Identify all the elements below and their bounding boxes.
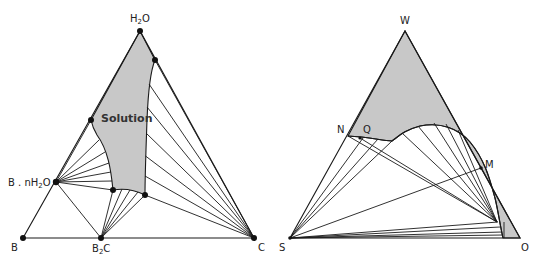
hydrate-point <box>53 179 59 185</box>
solution-bottom-left-point <box>110 187 116 193</box>
hydrate-label: B . nH2O <box>8 177 51 190</box>
n-label: N <box>337 124 344 135</box>
m-point <box>479 166 483 170</box>
left-ternary-diagram: H2O B C B2C B . nH2O Solution <box>8 13 265 256</box>
ternary-phase-diagrams: H2O B C B2C B . nH2O Solution <box>0 0 545 269</box>
h2o-vertex-point <box>137 28 143 34</box>
h2o-label: H2O <box>130 13 150 26</box>
o-label: O <box>521 242 529 253</box>
b-label: B <box>11 242 18 253</box>
q-point <box>358 136 361 139</box>
s-label: S <box>279 242 285 253</box>
tie-lines-to-c <box>145 60 254 238</box>
b2c-point <box>98 235 104 241</box>
c-label: C <box>258 242 265 253</box>
tie-lines-to-b2c <box>101 189 145 238</box>
solution-upper-left-point <box>88 117 94 123</box>
solution-bottom-right-point <box>142 192 148 198</box>
hydrate-to-b2c-line <box>56 182 101 238</box>
q-label: Q <box>363 124 371 135</box>
tie-lines-from-s <box>290 138 503 238</box>
solution-upper-right-point <box>152 57 158 63</box>
w-label: W <box>400 15 410 26</box>
right-ternary-diagram: W S O N Q M <box>279 15 529 253</box>
b2c-label: B2C <box>92 243 110 256</box>
m-label: M <box>485 159 494 170</box>
c-vertex-point <box>251 235 257 241</box>
solution-region-label: Solution <box>101 112 153 125</box>
b-vertex-point <box>20 235 26 241</box>
s-vertex-point <box>288 236 292 240</box>
